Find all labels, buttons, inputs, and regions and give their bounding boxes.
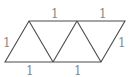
- label-top-left: 1: [51, 7, 59, 21]
- label-top-right: 1: [99, 7, 107, 21]
- label-left: 1: [3, 36, 11, 50]
- diagonal-3: [77, 21, 101, 62]
- diagonal-2: [53, 21, 77, 62]
- label-bottom-right: 1: [74, 64, 82, 77]
- label-right: 1: [118, 36, 126, 50]
- diagonal-1: [29, 21, 53, 62]
- label-bottom-left: 1: [26, 64, 34, 77]
- triangle-strip-diagram: 1 1 1 1 1 1: [0, 0, 129, 77]
- edges: [5, 21, 125, 62]
